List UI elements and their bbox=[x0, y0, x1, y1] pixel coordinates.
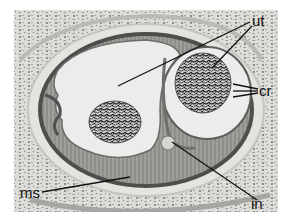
cell-mass-left bbox=[89, 101, 141, 143]
label-in: in bbox=[251, 195, 263, 212]
label-ut: ut bbox=[252, 12, 265, 29]
label-ms: ms bbox=[20, 184, 40, 201]
label-cr: cr bbox=[259, 82, 272, 99]
micrograph-svg: ut cr ms in bbox=[0, 0, 290, 223]
histology-figure: ut cr ms in bbox=[0, 0, 290, 223]
cell-mass-right bbox=[175, 53, 231, 113]
